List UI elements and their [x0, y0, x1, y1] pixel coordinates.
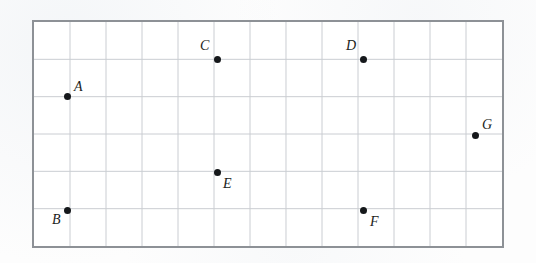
- figure-root: ABCDEFG: [0, 0, 536, 263]
- grid-plot-area: [32, 20, 504, 248]
- gridlines: [34, 22, 502, 246]
